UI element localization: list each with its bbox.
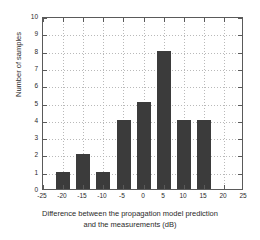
y-tick-label: 10 [24,13,38,21]
x-tick-mark-top [224,18,225,22]
gridline-horizontal [43,87,242,88]
x-tick-mark [103,185,104,189]
x-tick-mark-top [83,18,84,22]
y-tick-mark [43,105,47,106]
y-tick-label: 5 [24,100,38,108]
gridline-horizontal [43,35,242,36]
x-tick-mark-top [164,18,165,22]
x-tick-mark [184,185,185,189]
y-tick-label: 0 [24,186,38,194]
histogram-bar [137,102,151,189]
y-tick-label: 2 [24,151,38,159]
y-tick-mark-right [238,105,242,106]
x-tick-mark [83,185,84,189]
x-tick-mark [144,185,145,189]
y-tick-label: 9 [24,30,38,38]
y-axis-title: Number of samples [14,5,23,125]
y-tick-label: 8 [24,48,38,56]
y-tick-label: 7 [24,65,38,73]
x-axis-title-line-2: and the measurements (dB) [84,220,177,229]
y-tick-mark [43,35,47,36]
x-tick-mark-top [204,18,205,22]
x-tick-label: -15 [71,192,93,200]
y-tick-mark-right [238,70,242,71]
gridline-horizontal [43,53,242,54]
x-tick-label: 15 [192,192,214,200]
y-tick-mark [43,53,47,54]
y-tick-mark-right [238,122,242,123]
x-tick-mark [123,185,124,189]
x-tick-label: 5 [152,192,174,200]
y-tick-mark [43,122,47,123]
histogram-bar [177,120,191,189]
y-tick-mark [43,70,47,71]
y-tick-mark-right [238,18,242,19]
x-tick-mark [164,185,165,189]
y-tick-mark [43,139,47,140]
x-tick-mark-top [184,18,185,22]
gridline-vertical [63,18,64,189]
y-tick-label: 1 [24,169,38,177]
x-axis-title: Difference between the propagation model… [12,209,248,230]
y-tick-mark-right [238,174,242,175]
y-tick-mark-right [238,53,242,54]
x-tick-label: 10 [172,192,194,200]
x-tick-label: -20 [51,192,73,200]
histogram-bar [197,120,211,189]
y-tick-mark [43,87,47,88]
x-tick-label: 20 [212,192,234,200]
x-tick-label: 0 [132,192,154,200]
x-tick-label: -5 [111,192,133,200]
y-tick-label: 3 [24,134,38,142]
y-tick-mark-right [238,87,242,88]
y-tick-mark [43,174,47,175]
y-tick-label: 4 [24,117,38,125]
histogram-figure: -25-20-15-10-50510152025 012345678910 Di… [0,0,260,240]
x-tick-mark [224,185,225,189]
x-tick-label: -10 [91,192,113,200]
x-tick-mark-top [144,18,145,22]
gridline-vertical [103,18,104,189]
x-tick-mark-top [103,18,104,22]
x-tick-mark-top [123,18,124,22]
plot-area [42,17,243,190]
histogram-bar [76,154,90,189]
histogram-bar [117,120,131,189]
y-tick-label: 6 [24,82,38,90]
x-tick-mark [204,185,205,189]
gridline-vertical [224,18,225,189]
histogram-bar [157,51,171,189]
x-tick-mark-top [63,18,64,22]
y-tick-mark-right [238,156,242,157]
y-tick-mark-right [238,35,242,36]
x-axis-title-line-1: Difference between the propagation model… [42,209,218,218]
y-tick-mark [43,156,47,157]
x-tick-mark [43,185,44,189]
x-tick-label: 25 [232,192,254,200]
y-tick-mark-right [238,139,242,140]
gridline-horizontal [43,70,242,71]
y-tick-mark [43,18,47,19]
x-tick-mark [63,185,64,189]
